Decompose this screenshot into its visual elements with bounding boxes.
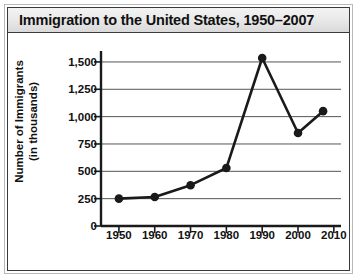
y-axis-title-line1: Number of Immigrants xyxy=(13,42,27,202)
y-axis-title: Number of Immigrants (in thousands) xyxy=(13,42,40,202)
data-point-marker xyxy=(222,164,231,173)
chart-figure-frame: Immigration to the United States, 1950–2… xyxy=(4,4,353,274)
y-tick-label: 500 xyxy=(49,165,97,177)
y-axis-tick-labels: 02505007501,0001,2501,500 xyxy=(45,33,97,233)
data-point-marker xyxy=(115,194,124,203)
x-tick-label: 1990 xyxy=(249,229,275,241)
x-tick-label: 2010 xyxy=(321,229,347,241)
data-point-marker xyxy=(258,54,267,63)
x-tick-label: 1980 xyxy=(214,229,240,241)
data-point-marker xyxy=(294,129,303,138)
plot-area: Number of Immigrants (in thousands) 0250… xyxy=(8,33,349,270)
data-point-marker xyxy=(186,181,195,190)
data-point-marker xyxy=(150,193,159,202)
gridlines xyxy=(101,62,341,199)
y-tick-label: 250 xyxy=(49,193,97,205)
y-tick-label: 1,250 xyxy=(49,83,97,95)
x-tick-label: 1970 xyxy=(178,229,204,241)
chart-title-bar: Immigration to the United States, 1950–2… xyxy=(8,8,349,33)
y-tick-label: 750 xyxy=(49,138,97,150)
x-tick-label: 1960 xyxy=(142,229,168,241)
y-tick-label: 1,000 xyxy=(49,111,97,123)
x-tick-label: 1950 xyxy=(106,229,132,241)
y-axis-title-line2: (in thousands) xyxy=(26,42,40,202)
x-tick-label: 2000 xyxy=(285,229,311,241)
x-axis-tick-labels: 1950196019701980199020002010 xyxy=(8,229,349,247)
data-series-line xyxy=(119,58,323,199)
page-title: Immigration to the United States, 1950–2… xyxy=(8,12,314,28)
data-point-marker xyxy=(319,107,328,116)
chart-inner-frame: Immigration to the United States, 1950–2… xyxy=(7,7,350,271)
y-tick-label: 1,500 xyxy=(49,56,97,68)
